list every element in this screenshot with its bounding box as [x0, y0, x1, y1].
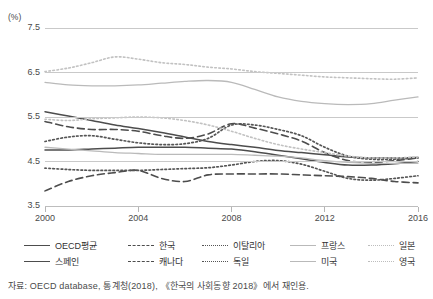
legend-label: 이탈리아: [233, 241, 265, 251]
series-line-프랑스: [45, 80, 418, 104]
legend-swatch-icon-독일: [202, 257, 228, 267]
legend-label: OECD평균: [55, 241, 97, 251]
legend-swatch-icon-미국: [290, 257, 316, 267]
x-tick-2012: [324, 207, 325, 212]
legend-item-영국[interactable]: 영국: [368, 254, 415, 270]
legend-label: 스페인: [55, 257, 79, 267]
y-tick-label-4.5: 4.5: [6, 156, 40, 166]
legend-label: 프랑스: [321, 241, 345, 251]
legend-item-스페인[interactable]: 스페인: [24, 254, 79, 270]
legend-item-독일[interactable]: 독일: [202, 254, 249, 270]
legend-item-이탈리아[interactable]: 이탈리아: [202, 238, 265, 254]
legend-label: 미국: [321, 257, 337, 267]
x-tick-2004: [138, 207, 139, 212]
legend-swatch-icon-일본: [368, 241, 394, 251]
x-tick-label-2008: 2008: [209, 213, 255, 223]
legend-label: 한국: [159, 241, 175, 251]
legend-swatch-icon-스페인: [24, 257, 50, 267]
legend-item-프랑스[interactable]: 프랑스: [290, 238, 345, 254]
legend-label: 캐나다: [159, 257, 183, 267]
gridline-6.5: [45, 72, 418, 73]
series-line-캐나다: [45, 121, 418, 162]
gridline-7.5: [45, 28, 418, 29]
legend-swatch-icon-영국: [368, 257, 394, 267]
gridline-4.5: [45, 161, 418, 162]
legend-swatch-icon-OECD평균: [24, 241, 50, 251]
legend-swatch-icon-캐나다: [128, 257, 154, 267]
legend-item-OECD평균[interactable]: OECD평균: [24, 238, 97, 254]
series-line-일본: [45, 57, 418, 79]
x-tick-2008: [231, 207, 232, 212]
y-tick-label-5.5: 5.5: [6, 111, 40, 121]
x-tick-label-2004: 2004: [115, 213, 161, 223]
y-tick-label-3.5: 3.5: [6, 200, 40, 210]
source-note: 자료: OECD database, 통계청(2018), 《한국의 사회동향 …: [8, 279, 418, 292]
legend-item-미국[interactable]: 미국: [290, 254, 337, 270]
legend-label: 일본: [399, 241, 415, 251]
legend-swatch-icon-프랑스: [290, 241, 316, 251]
legend-item-한국[interactable]: 한국: [128, 238, 175, 254]
legend-label: 독일: [233, 257, 249, 267]
x-tick-label-2000: 2000: [22, 213, 68, 223]
line-chart-plot-area: (%) 7.56.55.54.53.5 20002004200820122016: [0, 0, 423, 232]
legend-swatch-icon-이탈리아: [202, 241, 228, 251]
x-tick-label-2012: 2012: [302, 213, 348, 223]
legend-item-일본[interactable]: 일본: [368, 238, 415, 254]
gridline-5.5: [45, 117, 418, 118]
y-tick-label-7.5: 7.5: [6, 22, 40, 32]
legend-swatch-icon-한국: [128, 241, 154, 251]
y-axis-unit-label: (%): [8, 12, 21, 22]
x-tick-2016: [418, 207, 419, 212]
x-tick-2000: [45, 207, 46, 212]
chart-series-lines: [0, 0, 423, 232]
legend-item-캐나다[interactable]: 캐나다: [128, 254, 183, 270]
chart-legend: OECD평균스페인한국캐나다이탈리아독일프랑스미국일본영국: [0, 238, 423, 276]
y-tick-label-6.5: 6.5: [6, 67, 40, 77]
legend-label: 영국: [399, 257, 415, 267]
x-tick-label-2016: 2016: [395, 213, 433, 223]
